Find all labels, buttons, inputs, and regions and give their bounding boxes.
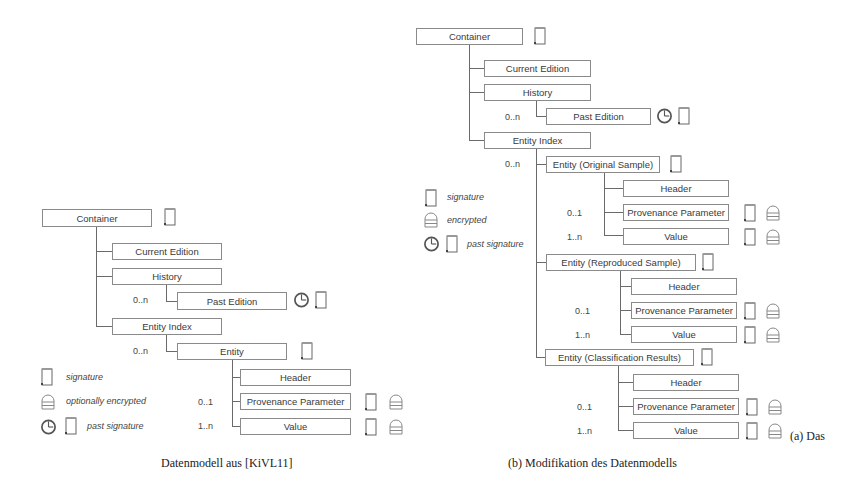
node-current-edition: Current Edition — [112, 243, 222, 260]
caption-trailing: (a) Das — [790, 429, 825, 444]
connector — [536, 149, 537, 358]
scroll-icon — [745, 397, 759, 417]
node-provenance-parameter: Provenance Parameter — [633, 398, 739, 415]
scroll-icon — [669, 154, 683, 174]
connector — [232, 401, 240, 402]
connector — [469, 45, 470, 141]
connector — [604, 212, 623, 213]
connector — [618, 366, 619, 431]
scroll-icon — [677, 106, 691, 126]
legend-encrypted: optionally encrypted — [66, 396, 146, 406]
connector — [232, 426, 240, 427]
scroll-icon — [743, 325, 757, 345]
scroll-icon — [64, 416, 78, 436]
multiplicity-label: 0..n — [505, 159, 520, 169]
scroll-icon — [163, 207, 177, 227]
connector — [620, 310, 631, 311]
node-header: Header — [623, 180, 729, 197]
connector — [620, 286, 631, 287]
node-entity-index: Entity Index — [484, 132, 591, 149]
multiplicity-label: 0..1 — [575, 306, 590, 316]
multiplicity-label: 0..1 — [567, 208, 582, 218]
node-provenance-parameter: Provenance Parameter — [631, 302, 737, 319]
lock-dome-icon — [767, 422, 783, 440]
lock-dome-icon — [765, 228, 781, 246]
node-entity-reproduced-sample: Entity (Reproduced Sample) — [546, 254, 696, 271]
legend-encrypted: encrypted — [447, 215, 487, 225]
lock-dome-icon — [40, 393, 56, 411]
multiplicity-label: 1..n — [575, 330, 590, 340]
scroll-icon — [743, 203, 757, 223]
multiplicity-label: 1..n — [577, 426, 592, 436]
node-past-edition: Past Edition — [177, 292, 287, 310]
legend-signature: signature — [66, 372, 103, 382]
node-container: Container — [416, 28, 523, 45]
connector — [96, 276, 112, 277]
multiplicity-label: 0..n — [505, 112, 520, 122]
connector — [166, 335, 167, 351]
node-past-edition: Past Edition — [546, 108, 651, 125]
multiplicity-label: 0..1 — [577, 402, 592, 412]
lock-dome-icon — [765, 204, 781, 222]
scroll-icon — [364, 392, 378, 412]
scroll-icon — [700, 347, 714, 367]
connector — [618, 406, 633, 407]
node-entity: Entity — [177, 343, 287, 360]
node-container: Container — [42, 209, 152, 227]
clock-icon — [656, 107, 673, 125]
node-header: Header — [631, 278, 737, 295]
node-entity-index: Entity Index — [112, 318, 222, 335]
connector — [536, 262, 546, 263]
scroll-icon — [314, 290, 328, 310]
node-entity-classification-results: Entity (Classification Results) — [545, 349, 694, 366]
clock-icon — [423, 235, 440, 253]
node-provenance-parameter: Provenance Parameter — [623, 204, 729, 221]
scroll-icon — [364, 417, 378, 437]
multiplicity-label: 0..n — [133, 295, 148, 305]
node-entity-original-sample: Entity (Original Sample) — [546, 156, 660, 173]
connector — [469, 68, 484, 69]
connector — [536, 357, 545, 358]
scroll-icon — [445, 234, 459, 254]
caption-a: Datenmodell aus [KiVL11] — [161, 456, 293, 471]
connector — [604, 235, 623, 236]
legend-past-signature: past signature — [87, 421, 144, 431]
connector — [96, 251, 112, 252]
multiplicity-label: 1..n — [198, 421, 213, 431]
node-history: History — [112, 268, 222, 285]
connector — [620, 334, 631, 335]
scroll-icon — [743, 301, 757, 321]
connector — [469, 140, 484, 141]
connector — [604, 173, 605, 235]
connector — [536, 101, 537, 117]
caption-b: (b) Modifikation des Datenmodells — [508, 456, 677, 471]
lock-dome-icon — [423, 211, 439, 229]
connector — [469, 92, 484, 93]
connector — [620, 270, 621, 335]
node-value: Value — [631, 326, 737, 343]
scroll-icon — [40, 367, 54, 387]
scroll-icon — [701, 252, 715, 272]
clock-icon — [293, 291, 310, 309]
lock-dome-icon — [765, 326, 781, 344]
legend-signature: signature — [447, 192, 484, 202]
node-value: Value — [633, 422, 739, 439]
node-value: Value — [240, 418, 351, 435]
connector — [96, 326, 112, 327]
node-history: History — [484, 84, 591, 101]
lock-dome-icon — [765, 302, 781, 320]
multiplicity-label: 0..1 — [198, 397, 213, 407]
lock-dome-icon — [767, 398, 783, 416]
connector — [232, 377, 240, 378]
scroll-icon — [300, 341, 314, 361]
legend-past-signature: past signature — [467, 239, 524, 249]
connector — [232, 360, 233, 427]
connector — [166, 351, 177, 352]
multiplicity-label: 0..n — [133, 346, 148, 356]
lock-dome-icon — [388, 393, 404, 411]
connector — [604, 188, 623, 189]
connector — [166, 285, 167, 301]
clock-icon — [40, 418, 57, 436]
node-header: Header — [240, 369, 351, 386]
connector — [618, 430, 633, 431]
